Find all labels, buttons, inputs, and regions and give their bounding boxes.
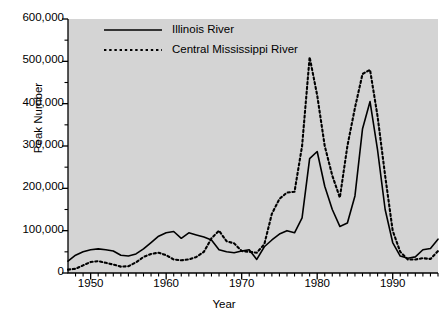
plot-background: [68, 19, 438, 273]
legend-label-illinois-river: Illinois River: [172, 23, 234, 35]
x-tick-label: 1980: [287, 277, 347, 289]
x-tick-label: 1950: [61, 277, 121, 289]
legend-label-central-mississippi-river: Central Mississippi River: [172, 43, 298, 55]
x-tick-label: 1990: [363, 277, 423, 289]
x-tick-label: 1970: [212, 277, 272, 289]
x-tick-label: 1960: [136, 277, 196, 289]
chart-figure: 0100,000200,000300,000400,000500,000600,…: [0, 0, 448, 319]
